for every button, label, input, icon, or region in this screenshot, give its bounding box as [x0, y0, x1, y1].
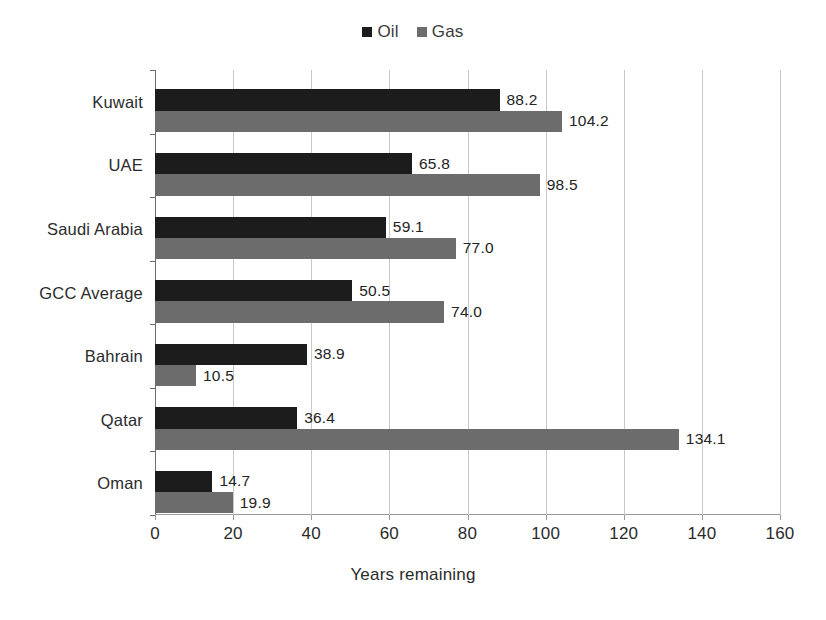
plot-area: 88.2104.265.898.559.177.050.574.038.910.…: [155, 70, 780, 515]
y-axis-tick: [150, 515, 155, 516]
bar-gas: [155, 111, 562, 132]
bar-gas: [155, 301, 444, 322]
bar-value-label: 36.4: [304, 409, 335, 427]
bar-gas: [155, 174, 540, 195]
bar-value-label: 50.5: [359, 282, 390, 300]
bar-oil: [155, 407, 297, 428]
bar-gas: [155, 365, 196, 386]
x-axis-tick: [624, 515, 625, 520]
y-axis-category-label: Saudi Arabia: [0, 219, 143, 238]
bar-oil: [155, 89, 500, 110]
y-axis-tick: [150, 70, 155, 71]
bar-value-label: 134.1: [686, 430, 726, 448]
y-axis-tick: [150, 134, 155, 135]
y-axis-tick: [150, 197, 155, 198]
bar-oil: [155, 217, 386, 238]
bar-gas: [155, 429, 679, 450]
y-axis-category-label: UAE: [0, 156, 143, 175]
y-axis-category-label: GCC Average: [0, 283, 143, 302]
y-axis-category-labels: KuwaitUAESaudi ArabiaGCC AverageBahrainQ…: [0, 70, 143, 515]
x-axis-tick: [311, 515, 312, 520]
y-axis-category-label: Kuwait: [0, 92, 143, 111]
bar-chart: Oil Gas KuwaitUAESaudi ArabiaGCC Average…: [0, 0, 826, 620]
bar-value-label: 74.0: [451, 303, 482, 321]
y-axis-tick: [150, 261, 155, 262]
x-axis-tick-label: 0: [150, 524, 160, 544]
gridline: [702, 70, 703, 515]
x-axis-tick: [702, 515, 703, 520]
bar-value-label: 19.9: [240, 494, 271, 512]
x-axis-tick: [546, 515, 547, 520]
legend-entry-gas: Gas: [417, 22, 464, 42]
x-axis-tick: [780, 515, 781, 520]
x-axis-tick-label: 120: [609, 524, 638, 544]
bar-oil: [155, 344, 307, 365]
bar-oil: [155, 471, 212, 492]
y-axis-tick: [150, 388, 155, 389]
x-axis-tick: [468, 515, 469, 520]
bar-gas: [155, 492, 233, 513]
x-axis-tick-label: 80: [458, 524, 477, 544]
bar-value-label: 65.8: [419, 155, 450, 173]
bar-value-label: 88.2: [507, 91, 538, 109]
x-axis-tick-label: 20: [223, 524, 242, 544]
y-axis-category-label: Oman: [0, 474, 143, 493]
y-axis-tick: [150, 451, 155, 452]
x-axis-title: Years remaining: [0, 565, 826, 585]
square-swatch-icon: [362, 27, 372, 37]
x-axis-tick-label: 60: [380, 524, 399, 544]
x-axis-tick-label: 40: [302, 524, 321, 544]
y-axis-tick: [150, 324, 155, 325]
bar-value-label: 98.5: [547, 176, 578, 194]
square-swatch-icon: [417, 27, 427, 37]
y-axis-category-label: Bahrain: [0, 347, 143, 366]
bar-value-label: 77.0: [463, 239, 494, 257]
x-axis-tick-label: 100: [531, 524, 560, 544]
legend-label-gas: Gas: [432, 22, 464, 42]
x-axis-tick-label: 160: [766, 524, 795, 544]
bar-gas: [155, 238, 456, 259]
legend-label-oil: Oil: [377, 22, 398, 42]
x-axis-tick: [155, 515, 156, 520]
bar-value-label: 104.2: [569, 112, 609, 130]
bar-value-label: 59.1: [393, 218, 424, 236]
x-axis-tick: [233, 515, 234, 520]
bar-value-label: 14.7: [219, 472, 250, 490]
x-axis-tick: [389, 515, 390, 520]
x-axis-tick-label: 140: [687, 524, 716, 544]
legend-entry-oil: Oil: [362, 22, 398, 42]
bar-oil: [155, 280, 352, 301]
y-axis-category-label: Qatar: [0, 410, 143, 429]
bar-value-label: 38.9: [314, 345, 345, 363]
bar-value-label: 10.5: [203, 367, 234, 385]
bar-oil: [155, 153, 412, 174]
chart-legend: Oil Gas: [0, 22, 826, 42]
gridline: [780, 70, 781, 515]
